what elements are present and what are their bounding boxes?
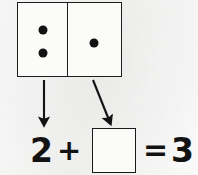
arrow-from-right-half xyxy=(93,80,109,120)
worksheet-canvas: 2 + = 3 xyxy=(0,0,198,175)
pip-dot xyxy=(38,26,47,35)
domino-tile xyxy=(17,2,122,77)
pip-dot xyxy=(89,39,98,48)
domino-right-half xyxy=(68,3,120,76)
domino-left-half xyxy=(18,3,68,76)
equation-plus-operator: + xyxy=(57,136,81,165)
pip-dot xyxy=(38,48,47,57)
equation-addend: 2 xyxy=(30,134,52,167)
equation-row: 2 + = 3 xyxy=(0,126,198,175)
equation-equals-sign: = xyxy=(143,135,168,165)
answer-input-box[interactable] xyxy=(92,128,136,173)
equation-sum: 3 xyxy=(171,134,193,167)
